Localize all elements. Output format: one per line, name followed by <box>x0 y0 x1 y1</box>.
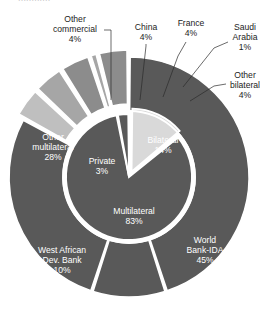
outer-label-other-bilateral: Otherbilateral4% <box>230 70 260 100</box>
outer-label-france: France4% <box>178 18 205 38</box>
outer-label-saudi-arabia: SaudiArabia1% <box>233 22 258 52</box>
outer-label-china: China4% <box>135 22 158 42</box>
pie-chart-figure: ............ WorldBank-IDA45%West Africa… <box>0 0 273 328</box>
nested-donut-chart: WorldBank-IDA45%West AfricanDev. Bank10%… <box>0 0 273 328</box>
cropped-title-remnant: ............ <box>18 0 50 3</box>
outer-label-other-commercial: Othercommercial4% <box>53 14 97 44</box>
